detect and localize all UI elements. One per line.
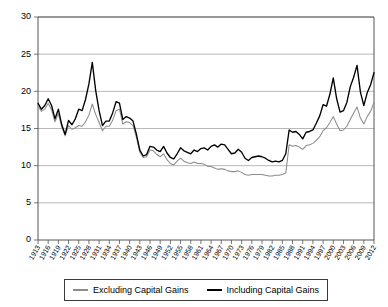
- y-axis-tick-label: 20: [21, 86, 31, 96]
- legend-label-including: Including Capital Gains: [227, 285, 320, 295]
- y-axis-tick-label: 10: [21, 160, 31, 170]
- legend-line-swatch-black-icon: [207, 289, 222, 291]
- series-line-excluding-capital-gains: [38, 102, 374, 176]
- legend-label-excluding: Excluding Capital Gains: [93, 285, 189, 295]
- y-axis-tick-label: 0: [26, 234, 31, 244]
- legend-item-excluding-capital-gains: Excluding Capital Gains: [73, 285, 189, 295]
- y-axis-tick-label: 15: [21, 123, 31, 133]
- y-axis-tick-label: 25: [21, 49, 31, 59]
- y-axis-tick-label: 5: [26, 197, 31, 207]
- chart-legend: Excluding Capital Gains Including Capita…: [64, 279, 328, 301]
- legend-item-including-capital-gains: Including Capital Gains: [207, 285, 320, 295]
- x-axis-tick-label: 2012: [364, 244, 378, 261]
- series-line-including-capital-gains: [38, 62, 374, 162]
- legend-line-swatch-gray-icon: [73, 289, 88, 291]
- y-axis-tick-label: 30: [21, 11, 31, 21]
- line-chart-plot: 0510152025301913191619191922192519281931…: [0, 0, 388, 307]
- chart-container: 0510152025301913191619191922192519281931…: [0, 0, 388, 307]
